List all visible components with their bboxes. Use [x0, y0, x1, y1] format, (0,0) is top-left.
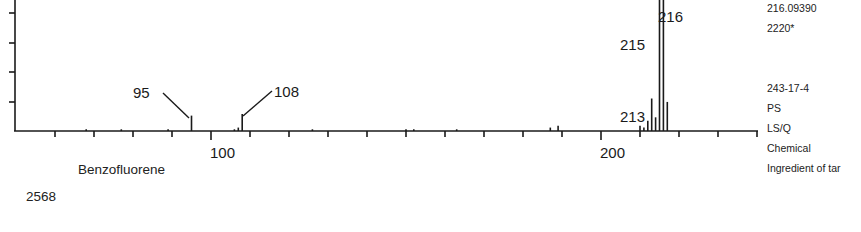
peak-label-108: 108 [274, 83, 299, 100]
mass-spectrum-plot: 100200 95108213215216 [0, 0, 861, 232]
y-ticks [9, 13, 15, 102]
peak-leader-lines [163, 91, 272, 118]
x-tick-label: 100 [210, 144, 235, 161]
x-tick-labels: 100200 [210, 144, 625, 161]
leader-108 [243, 91, 272, 116]
peak-label-215: 215 [620, 36, 645, 53]
x-tick-label: 200 [600, 144, 625, 161]
note: Ingredient of tar [767, 162, 841, 174]
peak-labels: 95108213215216 [133, 8, 683, 125]
compound-index: 2568 [26, 189, 56, 204]
x-ticks [55, 131, 757, 140]
peak-label-95: 95 [133, 84, 150, 101]
peak-label-216: 216 [658, 8, 683, 25]
axes [14, 0, 758, 131]
compound-name: Benzofluorene [78, 162, 165, 177]
retention-index: 2220* [767, 22, 794, 34]
compound-type: PS [767, 102, 781, 114]
category: Chemical [767, 142, 811, 154]
cas-number: 243-17-4 [767, 82, 809, 94]
leader-95 [163, 93, 189, 118]
peak-label-213: 213 [620, 108, 645, 125]
peaks [86, 0, 667, 131]
exact-mass: 216.09390 [767, 2, 817, 14]
compound-class: LS/Q [767, 122, 791, 134]
